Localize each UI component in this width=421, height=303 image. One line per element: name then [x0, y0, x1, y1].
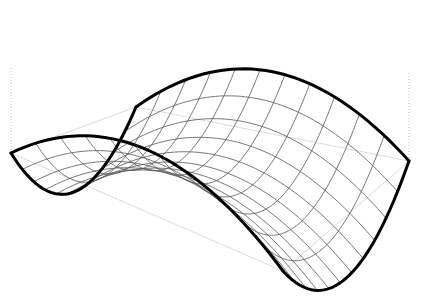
surface-plot-canvas	[0, 0, 421, 303]
surface-plot-figure	[0, 0, 421, 303]
